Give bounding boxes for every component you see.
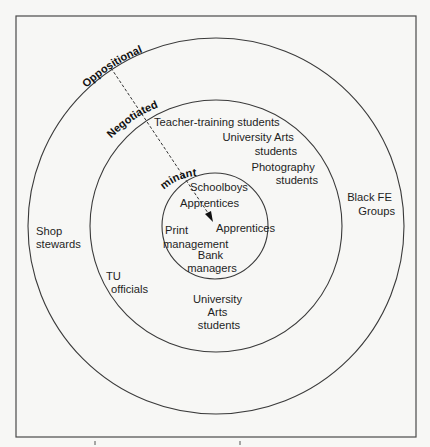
dashed-arrow-line [111, 68, 210, 216]
group-university-arts-students-bottom: University Arts students [193, 293, 245, 331]
ring-label-dominant: Dominant [0, 0, 197, 191]
ring-label-oppositional: Oppositional [80, 43, 144, 90]
group-black-fe-groups: Black FE Groups [347, 191, 395, 217]
group-apprentices-1: Apprentices [180, 197, 239, 209]
group-university-arts-students-top: University Arts students [222, 131, 297, 157]
group-teacher-training-students: Teacher-training students [154, 116, 280, 128]
group-apprentices-2: Apprentices [216, 222, 275, 234]
decoding-positions-diagram: Oppositional Negotiated Dominant Schoolb… [0, 0, 430, 447]
arrowhead-icon [205, 211, 213, 222]
group-bank-managers: Bank managers [187, 249, 237, 274]
group-schoolboys: Schoolboys [190, 181, 248, 193]
group-tu-officials: TU officials [106, 270, 149, 295]
group-photography-students: Photography students [251, 161, 318, 186]
ring-label-negotiated: Negotiated [104, 98, 159, 140]
group-shop-stewards: Shop stewards [36, 225, 81, 250]
